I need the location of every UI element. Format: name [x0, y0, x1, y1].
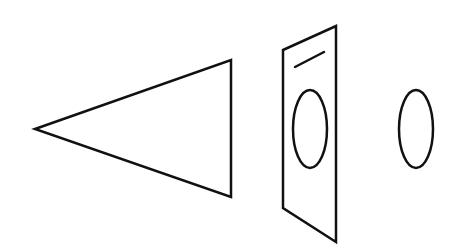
cone-triangle	[35, 60, 231, 197]
separate-ellipse	[399, 90, 433, 168]
plate-elliptical-hole	[293, 90, 327, 168]
plate-slit-line	[295, 52, 324, 67]
diagram-canvas	[0, 0, 458, 251]
